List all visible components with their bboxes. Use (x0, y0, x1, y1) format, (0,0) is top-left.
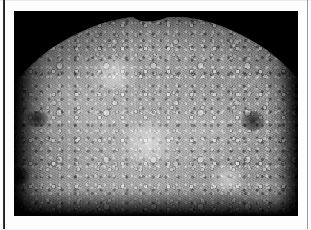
limb-shading (14, 15, 298, 216)
scan-edge-bottom (0, 229, 311, 230)
terminator-shadow-left (14, 11, 48, 216)
page-rule-left (3, 0, 5, 230)
scan-edge-top (0, 0, 311, 1)
shadow-bottom (14, 190, 298, 216)
limb-shadow-right (268, 11, 298, 216)
photograph-image (14, 11, 298, 216)
document-page (0, 0, 311, 230)
planet-disc (14, 15, 298, 216)
planetary-photograph (14, 11, 298, 216)
page-rule-right (307, 0, 308, 230)
